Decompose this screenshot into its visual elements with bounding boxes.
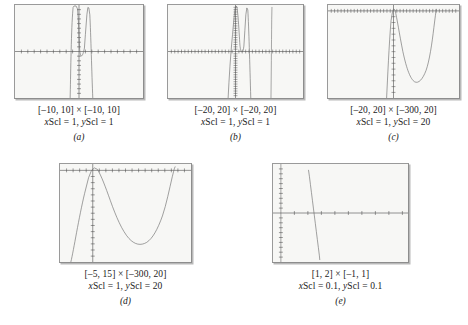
panel-a: [–10, 10] × [–10, 10] xScl = 1, yScl = 1… [14, 4, 144, 142]
caption-e: [1, 2] × [–1, 1] xScl = 0.1, yScl = 0.1 [299, 269, 383, 292]
graph-a [15, 5, 143, 98]
caption-scale-e: xScl = 0.1, yScl = 0.1 [299, 281, 383, 293]
axes-d [60, 164, 191, 262]
caption-window-e: [1, 2] × [–1, 1] [299, 269, 383, 281]
panel-e: [1, 2] × [–1, 1] xScl = 0.1, yScl = 0.1 … [272, 163, 409, 306]
graph-c [328, 5, 459, 98]
caption-window-c: [–20, 20] × [–300, 20] [350, 105, 437, 117]
panel-b: [–20, 20] × [–20, 20] xScl = 1, yScl = 1… [167, 4, 304, 142]
panel-label-e: (e) [335, 296, 346, 306]
curve-e [308, 170, 319, 260]
caption-scale-a: xScl = 1, yScl = 1 [38, 117, 120, 129]
caption-scale-c: xScl = 1, yScl = 20 [350, 117, 437, 129]
caption-b: [–20, 20] × [–20, 20] xScl = 1, yScl = 1 [195, 105, 277, 128]
calculator-screen-a [14, 4, 144, 99]
panel-label-b: (b) [230, 132, 241, 142]
curve-b [228, 6, 251, 98]
curve-a [70, 6, 93, 98]
figure-graphing-windows: [–10, 10] × [–10, 10] xScl = 1, yScl = 1… [0, 0, 468, 325]
caption-a: [–10, 10] × [–10, 10] xScl = 1, yScl = 1 [38, 105, 120, 128]
calculator-screen-d [59, 163, 192, 263]
caption-d: [–5, 15] × [–300, 20] xScl = 1, yScl = 2… [85, 269, 167, 292]
curve-b-branch [271, 7, 272, 98]
caption-c: [–20, 20] × [–300, 20] xScl = 1, yScl = … [350, 105, 437, 128]
panel-d: [–5, 15] × [–300, 20] xScl = 1, yScl = 2… [59, 163, 192, 306]
graph-b [168, 5, 303, 98]
caption-scale-d: xScl = 1, yScl = 20 [85, 281, 167, 293]
calculator-screen-c [327, 4, 460, 99]
panel-c: [–20, 20] × [–300, 20] xScl = 1, yScl = … [327, 4, 460, 142]
calculator-screen-b [167, 4, 304, 99]
caption-window-d: [–5, 15] × [–300, 20] [85, 269, 167, 281]
graph-e [273, 164, 408, 262]
caption-scale-b: xScl = 1, yScl = 1 [195, 117, 277, 129]
graph-d [60, 164, 191, 262]
panel-label-d: (d) [120, 296, 131, 306]
panel-label-a: (a) [73, 132, 84, 142]
curve-d [71, 166, 175, 262]
calculator-screen-e [272, 163, 409, 263]
axes-e [273, 164, 408, 262]
panel-label-c: (c) [388, 132, 399, 142]
caption-window-a: [–10, 10] × [–10, 10] [38, 105, 120, 117]
caption-window-b: [–20, 20] × [–20, 20] [195, 105, 277, 117]
